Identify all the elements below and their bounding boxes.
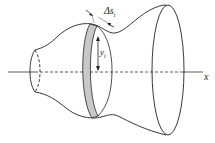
x-axis-label: x — [204, 72, 208, 82]
y-label: yi — [100, 48, 106, 59]
delta-s-leader-2 — [92, 15, 94, 23]
surface-of-revolution-figure — [0, 0, 215, 143]
y-arrow-up — [96, 36, 100, 41]
right-end-ellipse — [152, 5, 184, 135]
left-end-visible — [30, 50, 35, 92]
band-element — [83, 24, 98, 118]
delta-s-label: Δsi — [104, 6, 115, 18]
diagram-canvas: Δsi yi x — [0, 0, 215, 143]
y-arrow-down — [96, 66, 100, 71]
left-end-hidden — [35, 50, 40, 92]
top-profile-curve — [35, 5, 166, 50]
